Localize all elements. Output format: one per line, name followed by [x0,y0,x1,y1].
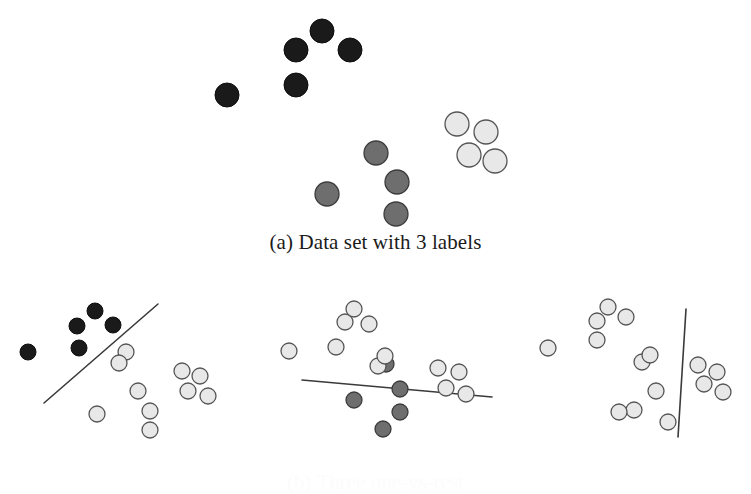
data-point [474,120,498,144]
data-point [600,299,616,315]
data-point [284,73,308,97]
data-point [445,112,469,136]
data-point [180,383,196,399]
data-point [458,386,474,402]
data-point [385,170,409,194]
data-point [626,402,642,418]
series-class-rest-light [89,344,216,438]
data-point [589,313,605,329]
data-point [87,303,103,319]
data-point [660,414,676,430]
data-point [89,406,105,422]
caption-subfigure-b: (b) Three one-vs-rest [0,470,751,494]
data-point [284,38,308,62]
data-point [377,348,393,364]
data-point [328,339,344,355]
series-class-mid-gray [315,141,409,226]
data-point [338,38,362,62]
data-point [451,364,467,380]
data-point [709,364,725,380]
series-class-dark [215,19,362,107]
series-class-dark [20,303,121,360]
data-point [364,141,388,165]
data-point [384,202,408,226]
data-point [105,317,121,333]
data-point [375,421,391,437]
data-point [142,403,158,419]
data-point [315,182,339,206]
data-point [690,357,706,373]
series-class-rest-light [540,299,676,430]
data-point [310,19,334,43]
data-point [715,384,731,400]
data-point [589,332,605,348]
data-point [618,309,634,325]
data-point [215,83,239,107]
data-point [69,318,85,334]
data-point [540,340,556,356]
data-point [457,143,481,167]
decision-boundary-line [678,309,686,437]
panel-one-vs-rest-light [540,299,731,437]
data-point [174,363,190,379]
data-point [611,404,627,420]
series-class-light-gray [690,357,731,400]
data-point [648,383,664,399]
data-point [111,355,127,371]
data-point [142,422,158,438]
data-point [346,392,362,408]
series-class-light-gray [445,112,507,173]
caption-subfigure-a: (a) Data set with 3 labels [0,230,751,254]
data-point [392,381,408,397]
data-point [192,368,208,384]
data-point [392,404,408,420]
data-point [346,301,362,317]
panel-one-vs-rest-dark [20,303,216,438]
data-point [200,388,216,404]
data-point [130,383,146,399]
data-point [361,316,377,332]
panel-data-set-with-3-labels [215,19,507,226]
data-point [20,344,36,360]
data-point [281,343,297,359]
data-point [696,376,712,392]
data-point [483,149,507,173]
data-point [430,360,446,376]
data-point [71,340,87,356]
panel-one-vs-rest-mid [281,301,492,437]
data-point [438,380,454,396]
data-point [642,347,658,363]
